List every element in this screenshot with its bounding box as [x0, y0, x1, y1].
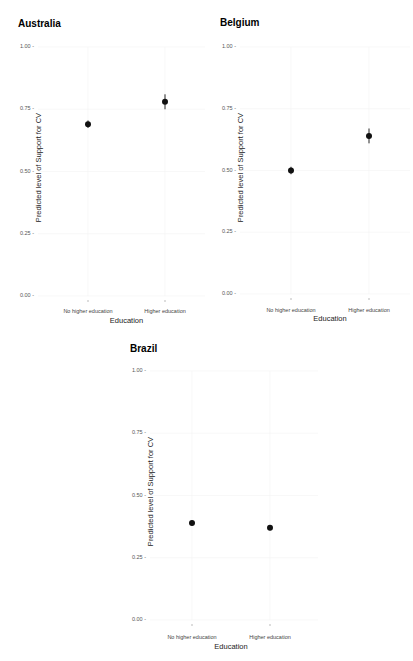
plot-area [0, 0, 413, 661]
data-point [189, 520, 195, 526]
y-tick-label: 0.25 - [116, 554, 146, 560]
y-tick-label: 1.00 - [116, 367, 146, 373]
x-tick-label: No higher education [167, 634, 216, 640]
y-tick-label: 0.00 - [116, 616, 146, 622]
x-tick-label: Higher education [249, 634, 291, 640]
data-point [267, 525, 273, 531]
y-tick-label: 0.50 - [116, 492, 146, 498]
y-tick-label: 0.75 - [116, 429, 146, 435]
